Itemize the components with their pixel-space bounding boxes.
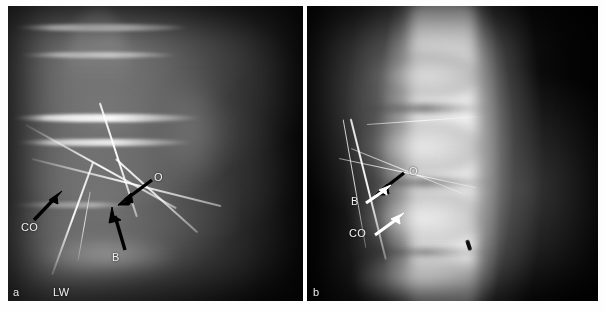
- annotation-label-lw-panel-a: LW: [53, 287, 69, 298]
- spinous-process-shadow: [68, 6, 128, 126]
- panel-letter-a: a: [13, 286, 19, 298]
- vertebral-body: [365, 50, 485, 102]
- panel-letter-b: b: [313, 286, 319, 298]
- annotation-label-b-panel-a: B: [112, 252, 120, 263]
- annotation-label-b-panel-b: B: [351, 196, 359, 207]
- arrow-b-panel-b: [361, 182, 397, 208]
- vertebral-body: [355, 254, 495, 301]
- radiograph-figure: O CO B LW a: [0, 0, 606, 313]
- annotation-label-o-panel-a: O: [154, 172, 163, 183]
- panel-a-lateral-radiograph: O CO B LW a: [8, 6, 303, 301]
- annotation-label-co-panel-b: CO: [349, 228, 366, 239]
- panel-b-ap-radiograph: O B CO b: [307, 6, 598, 301]
- arrow-b-panel-a: [104, 204, 144, 256]
- annotation-label-o-panel-b: O: [409, 166, 418, 177]
- disc-space: [355, 248, 495, 256]
- annotation-label-co-panel-a: CO: [21, 222, 38, 233]
- disc-space: [359, 104, 489, 113]
- arrow-co-panel-b: [371, 210, 411, 240]
- posterior-element-shadow: [158, 66, 243, 196]
